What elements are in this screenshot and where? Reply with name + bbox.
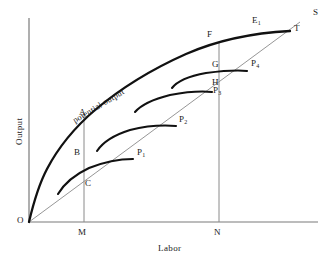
point-label-T: T (294, 24, 300, 33)
point-label-E: E1 (252, 16, 261, 25)
short-run-curve-4 (172, 71, 247, 88)
point-label-P1-subscript: 1 (142, 152, 145, 158)
ray-from-origin (29, 22, 300, 222)
point-label-P2-subscript: 2 (184, 119, 187, 125)
economics-production-diagram: A B C F G H E1 S T P1 P2 P3 P4 M N O pot… (0, 0, 330, 262)
point-label-P3: P3 (213, 86, 221, 95)
point-label-P4: P4 (251, 59, 259, 68)
origin-label-O: O (17, 216, 24, 225)
point-label-P1: P1 (137, 148, 145, 157)
point-label-E-text: E (252, 15, 258, 25)
x-tick-label-M: M (78, 228, 86, 237)
point-label-F: F (207, 30, 212, 39)
short-run-curve-1 (58, 159, 133, 194)
point-label-P4-subscript: 4 (256, 63, 259, 69)
x-tick-label-N: N (214, 228, 221, 237)
point-label-G: G (212, 60, 219, 69)
point-label-P2: P2 (179, 115, 187, 124)
point-label-C: C (85, 179, 91, 188)
point-label-E-subscript: 1 (258, 20, 261, 26)
point-label-S: S (313, 8, 318, 17)
point-label-B: B (74, 148, 80, 157)
x-axis-title: Labor (158, 243, 182, 253)
plot-canvas (0, 0, 330, 262)
point-label-P3-subscript: 3 (218, 90, 221, 96)
short-run-curve-3 (135, 92, 212, 112)
y-axis-title: Output (14, 118, 24, 145)
